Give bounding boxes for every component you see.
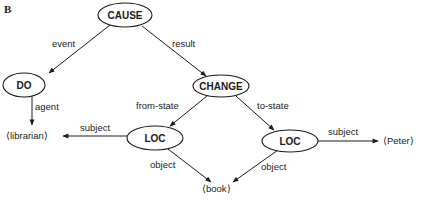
- panel-label: B: [4, 3, 12, 15]
- node-loc-from-label: LOC: [144, 133, 165, 144]
- node-loc-to: LOC: [262, 130, 318, 152]
- edge-label-event: event: [52, 38, 76, 49]
- edge-label-to-state: to-state: [257, 100, 289, 111]
- edge-cause-change: [142, 26, 206, 76]
- edge-label-subject-right: subject: [328, 126, 358, 137]
- node-cause: CAUSE: [98, 3, 152, 27]
- edges: [32, 25, 378, 182]
- leaf-book: ⟨book⟩: [202, 183, 231, 194]
- node-change: CHANGE: [193, 75, 249, 97]
- edge-label-object-right: object: [261, 161, 287, 172]
- node-cause-label: CAUSE: [107, 10, 142, 21]
- edge-cause-do: [49, 25, 110, 73]
- node-loc-from: LOC: [127, 126, 183, 150]
- leaf-librarian: ⟨librarian⟩: [6, 130, 48, 141]
- node-do: DO: [3, 73, 45, 97]
- edge-label-object-left: object: [150, 159, 176, 170]
- node-loc-to-label: LOC: [279, 136, 300, 147]
- edge-label-result: result: [172, 38, 196, 49]
- edge-label-agent: agent: [35, 101, 59, 112]
- semantic-network-diagram: B event result agent from-state to-state…: [0, 0, 421, 201]
- edge-label-from-state: from-state: [136, 100, 179, 111]
- edge-label-subject-left: subject: [80, 122, 110, 133]
- leaf-peter: ⟨Peter⟩: [383, 135, 414, 146]
- node-do-label: DO: [17, 80, 32, 91]
- node-change-label: CHANGE: [199, 81, 243, 92]
